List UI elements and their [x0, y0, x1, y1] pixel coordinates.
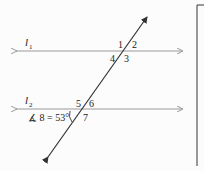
angle-label-7: 7 — [83, 112, 88, 123]
label-l1-main: l — [25, 36, 28, 48]
angle-label-6: 6 — [89, 98, 94, 109]
angle-label-4: 4 — [110, 53, 115, 64]
angle-label-3: 3 — [124, 53, 129, 64]
label-l2-sub: 2 — [29, 101, 33, 109]
angle-label-1: 1 — [118, 39, 123, 50]
transversal-line — [48, 17, 147, 157]
angle-label-2: 2 — [132, 39, 137, 50]
label-l1-sub: 1 — [29, 43, 33, 51]
given-angle-8: ∡ 8 = 53° — [28, 112, 69, 123]
answer-box-border — [197, 5, 204, 166]
label-l2-main: l — [25, 94, 28, 106]
geometry-diagram: l 1 l 2 1 2 3 4 5 6 7 ∡ 8 = 53° — [0, 0, 204, 171]
angle-8-arc — [69, 111, 72, 122]
angle-label-5: 5 — [76, 98, 81, 109]
